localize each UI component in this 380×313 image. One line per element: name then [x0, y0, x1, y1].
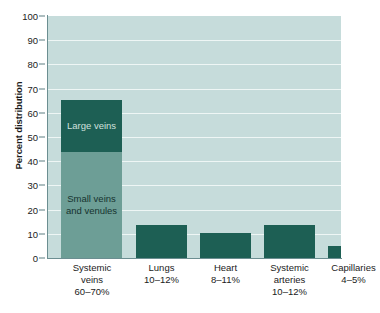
- y-axis-tick-mark: [39, 209, 45, 210]
- x-axis-line: [47, 258, 342, 259]
- y-axis-tick-mark: [39, 137, 45, 138]
- y-axis-tick-label: 50: [27, 132, 38, 143]
- y-axis-tick-mark: [39, 185, 45, 186]
- plot-area: Large veins Small veins and venules: [48, 16, 341, 258]
- y-axis-tick-mark: [39, 40, 45, 41]
- x-label-line: 10–12%: [239, 286, 340, 298]
- y-axis-tick-mark: [39, 233, 45, 234]
- bar-systemic-arteries[interactable]: [264, 225, 315, 258]
- y-axis-tick-label: 20: [27, 204, 38, 215]
- x-axis-label-capillaries: Capillaries 4–5%: [303, 262, 380, 286]
- bar-segment-large-veins[interactable]: Large veins: [61, 100, 122, 152]
- y-axis-tick-mark: [39, 64, 45, 65]
- y-axis-tick-mark: [39, 16, 45, 17]
- segment-label-line: venules: [84, 205, 117, 216]
- segment-label-line: Large: [67, 120, 91, 131]
- y-axis-tick-label: 30: [27, 180, 38, 191]
- gridline: [48, 40, 341, 41]
- bar-segment-small-veins-and-venules[interactable]: Small veins and venules: [61, 152, 122, 259]
- y-axis-tick-mark: [39, 88, 45, 89]
- bar-heart[interactable]: [200, 233, 251, 258]
- x-axis-label-group: Systemic veins 60–70% Lungs 10–12% Heart…: [48, 262, 341, 313]
- y-axis-tick-label: 90: [27, 35, 38, 46]
- segment-label-line: and: [66, 205, 82, 216]
- x-label-line: Capillaries: [303, 262, 380, 274]
- y-axis-tick-mark: [39, 161, 45, 162]
- y-axis-tick-label: 60: [27, 107, 38, 118]
- gridline: [48, 64, 341, 65]
- x-label-line: 4–5%: [303, 274, 380, 286]
- segment-label-line: veins: [94, 120, 116, 131]
- y-axis-tick-label: 40: [27, 156, 38, 167]
- bar-systemic-veins[interactable]: Large veins Small veins and venules: [61, 100, 122, 259]
- y-axis-tick-mark: [39, 112, 45, 113]
- y-axis-tick-label: 80: [27, 59, 38, 70]
- y-axis-tick-label: 10: [27, 228, 38, 239]
- y-axis-tick-label: 0: [33, 253, 38, 264]
- y-axis-tick-label: 100: [22, 11, 38, 22]
- x-label-line: 60–70%: [42, 286, 142, 298]
- y-axis-tick-label: 70: [27, 83, 38, 94]
- bar-capillaries[interactable]: [328, 246, 341, 258]
- segment-label-line: veins: [94, 193, 116, 204]
- y-axis-tick-mark: [39, 258, 45, 259]
- bar-lungs[interactable]: [136, 225, 187, 258]
- segment-label-line: Small: [67, 193, 91, 204]
- gridline: [48, 89, 341, 90]
- y-axis-tick-group: 100 90 80 70 60 50 40 30 20 10 0: [0, 0, 48, 313]
